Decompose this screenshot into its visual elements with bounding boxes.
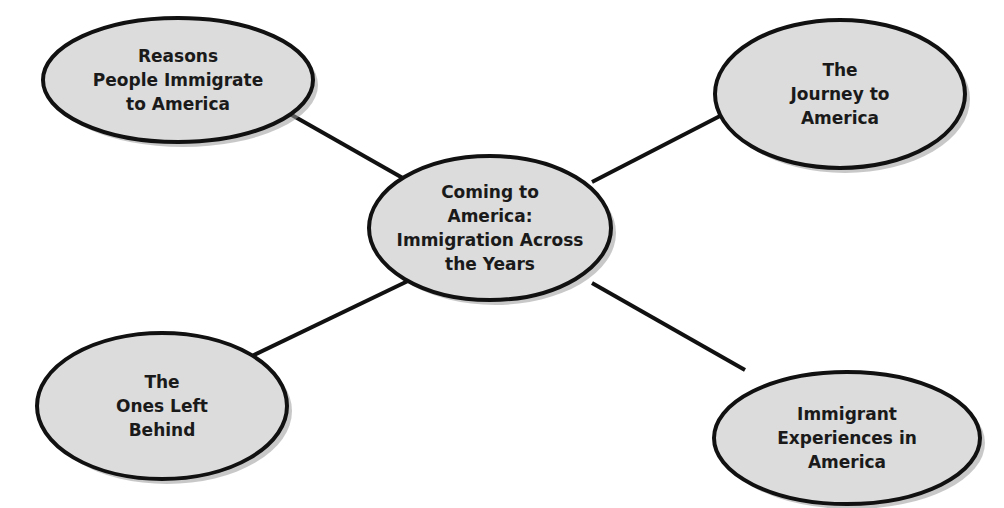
diagram-canvas xyxy=(0,0,1004,508)
edge-center-experiences xyxy=(592,283,745,370)
node-ellipse-left-behind xyxy=(37,333,287,479)
node-ellipse-reasons xyxy=(43,18,313,142)
node-ellipse-journey xyxy=(715,20,965,168)
concept-web-diagram: Reasons People Immigrate to America The … xyxy=(0,0,1004,508)
node-ellipse-experiences xyxy=(714,372,980,504)
edge-center-reasons xyxy=(290,114,408,181)
node-ellipse-center xyxy=(369,156,611,300)
edge-center-journey xyxy=(592,116,720,182)
node-layer xyxy=(37,18,980,504)
edge-center-left-behind xyxy=(252,280,410,356)
